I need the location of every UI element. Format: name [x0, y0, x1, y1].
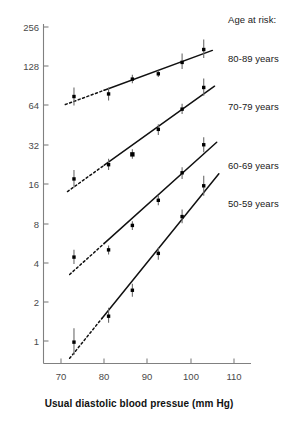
data-point-marker: [107, 314, 110, 317]
x-tick-label-90: 90: [142, 371, 153, 382]
data-point-marker: [107, 248, 110, 251]
x-tick-label-100: 100: [183, 371, 199, 382]
x-tick-label-80: 80: [99, 371, 110, 382]
fit-line: [104, 86, 214, 165]
data-point-marker: [72, 340, 75, 343]
data-point-marker: [107, 92, 110, 95]
x-tick-label-70: 70: [56, 371, 67, 382]
data-point-marker: [180, 61, 183, 64]
data-point-marker: [131, 289, 134, 292]
x-axis-ticks: [61, 359, 234, 364]
data-point-marker: [157, 199, 160, 202]
data-point-marker: [180, 171, 183, 174]
y-tick-label-1: 1: [34, 336, 39, 347]
fit-line: [104, 142, 216, 243]
data-point-marker: [131, 77, 134, 80]
data-point-marker: [202, 143, 205, 146]
y-tick-label-16: 16: [28, 179, 39, 190]
legend-item-80-89[interactable]: 80-89 years: [228, 53, 279, 64]
data-point-marker: [72, 255, 75, 258]
y-tick-label-128: 128: [23, 61, 39, 72]
y-axis-ticks: [44, 27, 49, 341]
series-80-89-years: [65, 40, 212, 106]
x-tick-label-110: 110: [226, 371, 241, 382]
data-point-marker: [157, 72, 160, 75]
plot-area: 256 128 64 32 16 8 4 2 1 70 80 90 100 11…: [0, 0, 306, 428]
data-point-marker: [202, 184, 205, 187]
legend-item-50-59[interactable]: 50-59 years: [228, 198, 279, 209]
data-point-marker: [107, 163, 110, 166]
legend-title: Age at risk:: [228, 14, 276, 25]
fit-line: [104, 50, 212, 90]
y-tick-label-8: 8: [34, 219, 39, 230]
data-point-marker: [130, 152, 134, 156]
data-point-marker: [202, 86, 205, 89]
y-tick-label-4: 4: [34, 258, 39, 269]
series-50-59-years: [70, 174, 219, 359]
y-tick-label-64: 64: [28, 100, 39, 111]
y-tick-label-2: 2: [34, 297, 39, 308]
data-series-layer: [65, 40, 219, 359]
series-60-69-years: [70, 137, 217, 274]
fit-line-extrapolated: [70, 243, 105, 274]
legend-item-70-79[interactable]: 70-79 years: [228, 101, 279, 112]
chart-figure: 256 128 64 32 16 8 4 2 1 70 80 90 100 11…: [0, 0, 306, 428]
y-tick-label-256: 256: [23, 22, 39, 33]
legend-item-60-69[interactable]: 60-69 years: [228, 160, 279, 171]
x-axis-title: Usual diastolic blood pressue (mm Hg): [0, 398, 278, 409]
data-point-marker: [131, 224, 134, 227]
fit-line-extrapolated: [65, 90, 104, 104]
series-70-79-years: [67, 79, 214, 192]
data-point-marker: [72, 177, 75, 180]
fit-line: [102, 174, 219, 318]
data-point-marker: [180, 107, 183, 110]
data-point-marker: [180, 215, 183, 218]
data-point-marker: [157, 128, 160, 131]
data-point-marker: [157, 252, 160, 255]
data-point-marker: [72, 95, 75, 98]
y-tick-label-32: 32: [28, 140, 39, 151]
data-point-marker: [202, 48, 205, 51]
